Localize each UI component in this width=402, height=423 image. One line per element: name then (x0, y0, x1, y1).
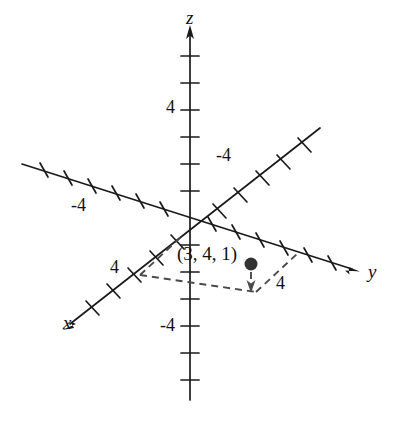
x-positive-tick-label: 4 (110, 258, 119, 276)
z-axis-label: z (186, 8, 193, 27)
z-positive-tick-label: 4 (166, 98, 175, 116)
y-negative-tick-label: -4 (71, 196, 86, 214)
point-marker (245, 258, 258, 271)
y-axis-label: y (368, 262, 376, 281)
point-coordinate-label: (3, 4, 1) (177, 244, 237, 263)
coordinate-system-figure: z y x 4 -4 -4 4 -4 4 (3, 4, 1) (0, 0, 402, 423)
axes-drawing (0, 0, 402, 423)
z-axis (181, 25, 199, 400)
y-positive-tick-label: 4 (276, 274, 285, 292)
x-negative-tick-label: -4 (216, 146, 231, 164)
z-negative-tick-label: -4 (160, 316, 175, 334)
x-axis-label: x (63, 313, 71, 332)
